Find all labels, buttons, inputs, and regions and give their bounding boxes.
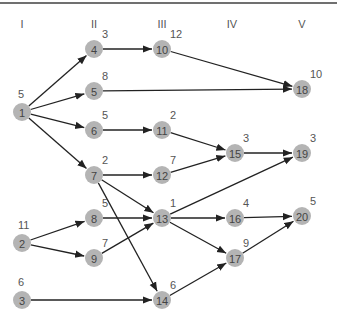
node-13: 131 <box>153 197 176 227</box>
node-5: 58 <box>85 70 108 100</box>
column-label: III <box>157 18 166 30</box>
edge-11-to-15 <box>171 133 226 150</box>
node-label: 10 <box>156 44 168 56</box>
node-label: 12 <box>156 170 168 182</box>
node-weight: 3 <box>102 28 108 40</box>
edge-9-to-13 <box>102 223 154 253</box>
column-label: IV <box>227 18 238 30</box>
node-label: 18 <box>296 84 308 96</box>
node-label: 1 <box>19 107 25 119</box>
node-label: 6 <box>91 125 97 137</box>
edge-16-to-20 <box>244 216 292 217</box>
edge-17-to-20 <box>243 221 294 253</box>
node-weight: 6 <box>18 276 24 288</box>
node-weight: 3 <box>243 132 249 144</box>
node-weight: 7 <box>102 237 108 249</box>
edge-13-to-19 <box>170 157 293 214</box>
node-20: 205 <box>293 195 316 225</box>
node-7: 72 <box>85 154 108 184</box>
edge-1-to-5 <box>31 94 85 110</box>
edge-12-to-15 <box>171 156 226 173</box>
node-4: 43 <box>85 28 108 58</box>
node-label: 9 <box>91 253 97 265</box>
node-label: 20 <box>296 211 308 223</box>
node-2: 211 <box>13 219 31 252</box>
node-weight: 5 <box>102 109 108 121</box>
node-18: 1810 <box>293 68 322 98</box>
network-diagram: IIIIIIIVV 152113643586572859710121121271… <box>0 0 337 321</box>
edge-2-to-9 <box>31 245 84 256</box>
node-label: 15 <box>229 148 241 160</box>
edge-7-to-13 <box>102 180 154 213</box>
node-3: 36 <box>13 276 31 309</box>
node-weight: 2 <box>170 109 176 121</box>
node-8: 85 <box>85 197 108 227</box>
node-6: 65 <box>85 109 108 139</box>
edge-1-to-4 <box>29 56 87 107</box>
node-weight: 1 <box>170 197 176 209</box>
edge-1-to-6 <box>31 114 85 127</box>
node-weight: 9 <box>243 237 249 249</box>
node-label: 2 <box>19 238 25 250</box>
node-16: 164 <box>226 197 249 227</box>
node-label: 11 <box>156 125 167 137</box>
node-weight: 5 <box>102 197 108 209</box>
column-label: I <box>20 18 23 30</box>
edge-14-to-17 <box>170 263 227 296</box>
node-weight: 11 <box>18 219 29 231</box>
node-19: 193 <box>293 132 316 162</box>
node-weight: 4 <box>243 197 249 209</box>
node-11: 112 <box>153 109 176 139</box>
node-weight: 8 <box>102 70 108 82</box>
node-1: 15 <box>13 88 31 121</box>
node-label: 7 <box>91 170 97 182</box>
node-weight: 3 <box>310 132 316 144</box>
node-label: 5 <box>91 86 97 98</box>
node-label: 17 <box>229 253 241 265</box>
edge-10-to-18 <box>171 52 293 87</box>
node-label: 19 <box>296 148 308 160</box>
node-weight: 12 <box>170 28 182 40</box>
edge-5-to-18 <box>103 89 292 91</box>
node-label: 3 <box>19 295 25 307</box>
nodes: 1521136435865728597101211212713114615316… <box>13 28 322 309</box>
node-12: 127 <box>153 154 176 184</box>
node-weight: 5 <box>18 88 24 100</box>
node-weight: 5 <box>310 195 316 207</box>
node-label: 13 <box>156 213 168 225</box>
column-label: II <box>91 18 97 30</box>
edge-13-to-17 <box>170 222 226 253</box>
node-weight: 10 <box>310 68 322 80</box>
node-label: 16 <box>229 213 241 225</box>
node-label: 4 <box>91 44 97 56</box>
node-label: 14 <box>156 295 168 307</box>
edge-2-to-8 <box>31 221 85 240</box>
column-label: V <box>298 18 306 30</box>
node-15: 153 <box>226 132 249 162</box>
column-labels: IIIIIIIVV <box>20 18 306 30</box>
node-weight: 7 <box>170 154 176 166</box>
node-weight: 6 <box>170 279 176 291</box>
node-weight: 2 <box>102 154 108 166</box>
node-label: 8 <box>91 213 97 225</box>
